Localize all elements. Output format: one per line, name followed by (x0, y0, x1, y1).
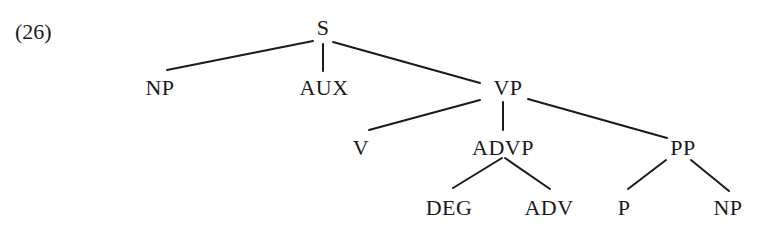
tree-node-advp: ADVP (472, 137, 534, 159)
tree-edges (0, 0, 764, 234)
tree-node-v: V (353, 137, 369, 159)
tree-node-p: P (618, 197, 631, 219)
tree-node-deg: DEG (426, 197, 473, 219)
edge-s-vp (333, 42, 480, 83)
edge-advp-deg (453, 158, 502, 188)
edge-vp-pp (528, 99, 667, 138)
tree-node-aux: AUX (299, 77, 348, 99)
edge-s-np1 (167, 41, 313, 70)
tree-node-np1: NP (145, 77, 174, 99)
tree-node-s: S (317, 17, 330, 39)
edge-advp-adv (505, 158, 550, 189)
tree-node-vp: VP (493, 77, 522, 99)
edge-vp-v (369, 100, 480, 130)
tree-node-adv: ADV (524, 197, 573, 219)
edge-pp-p (628, 160, 666, 189)
example-number: (26) (15, 21, 52, 43)
syntax-tree-diagram: (26) SNPAUXVPVADVPPPDEGADVPNP (0, 0, 764, 234)
tree-node-np2: NP (713, 197, 742, 219)
tree-node-pp: PP (670, 137, 695, 159)
edge-pp-np2 (691, 160, 729, 191)
